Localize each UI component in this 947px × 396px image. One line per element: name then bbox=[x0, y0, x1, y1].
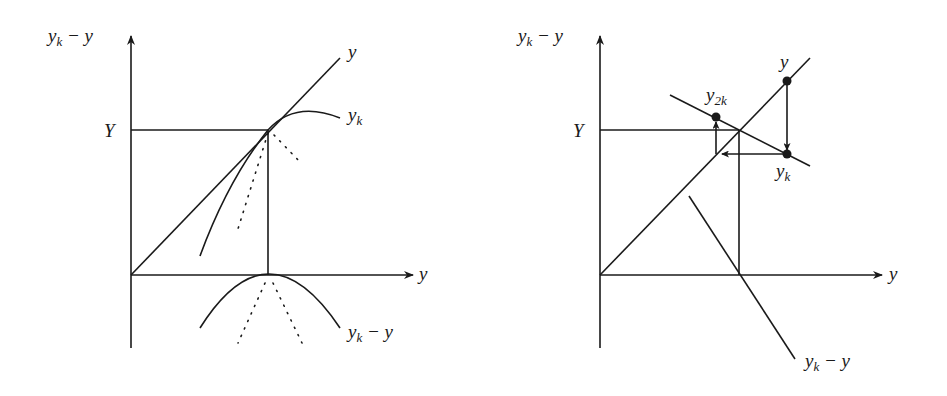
point-y2k bbox=[712, 113, 721, 122]
right-point-yk-label: yk bbox=[774, 160, 790, 184]
right-point-y2k-label: y2k bbox=[704, 84, 727, 108]
left-diff-dotted-b bbox=[273, 283, 302, 343]
left-difference-curve bbox=[200, 274, 340, 328]
right-panel: yk − y y Y y y2k yk yk − y bbox=[516, 25, 898, 374]
left-tangent-dotted-b bbox=[274, 135, 302, 164]
left-y-axis-label: yk − y bbox=[46, 25, 94, 49]
right-y-axis-label: yk − y bbox=[516, 25, 564, 49]
left-identity-label: y bbox=[346, 41, 357, 62]
right-difference-label: yk − y bbox=[803, 350, 851, 374]
right-x-axis-label: y bbox=[887, 263, 898, 284]
point-yk bbox=[783, 150, 792, 159]
right-point-y-label: y bbox=[778, 51, 789, 72]
point-y bbox=[783, 77, 792, 86]
left-map-curve bbox=[200, 111, 340, 256]
diagram-canvas: yk − y y Y y yk yk − y yk − y y Y y y2k … bbox=[0, 0, 947, 396]
right-level-label: Y bbox=[573, 120, 586, 141]
right-difference-line bbox=[689, 196, 795, 359]
left-map-label: yk bbox=[346, 104, 362, 128]
left-x-axis-label: y bbox=[417, 263, 428, 284]
left-difference-label: yk − y bbox=[346, 321, 394, 345]
left-panel: yk − y y Y y yk yk − y bbox=[46, 25, 428, 348]
left-diff-dotted-a bbox=[238, 283, 265, 343]
left-level-label: Y bbox=[104, 120, 117, 141]
left-identity-line bbox=[131, 58, 340, 275]
